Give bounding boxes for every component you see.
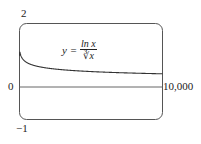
formula-lhs: y = [62,44,77,56]
x-tick-right: 10,000 [163,81,193,92]
formula-denominator: ∛x [83,50,94,61]
chart-plot [0,0,201,144]
y-tick-zero: 0 [8,81,14,92]
y-tick-bottom: −1 [16,123,28,134]
formula-fraction: ln x ∛x [80,38,97,61]
formula-numerator: ln x [80,38,97,50]
curve-formula: y = ln x ∛x [62,38,97,61]
y-tick-top: 2 [21,8,27,19]
